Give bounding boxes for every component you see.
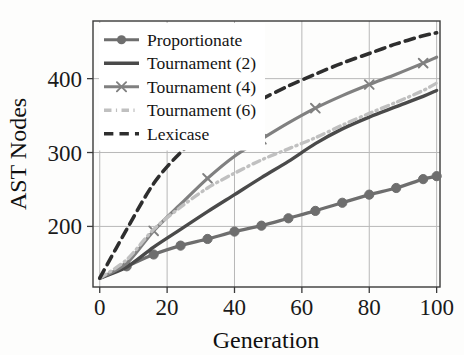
chart-figure: 020406080100200300400 Generation AST Nod… xyxy=(0,0,464,355)
data-point-marker xyxy=(203,234,212,243)
legend-swatch-circle-marker xyxy=(117,35,126,44)
y-tick-label: 400 xyxy=(48,67,83,92)
data-point-marker xyxy=(203,174,212,183)
data-point-marker xyxy=(419,175,428,184)
y-tick-label: 200 xyxy=(48,214,83,239)
data-point-marker xyxy=(392,183,401,192)
y-tick-label: 300 xyxy=(48,141,83,166)
data-point-marker xyxy=(338,198,347,207)
x-axis-title: Generation xyxy=(213,327,320,353)
x-tick-label: 100 xyxy=(419,295,454,320)
ast-nodes-line-chart: 020406080100200300400 Generation AST Nod… xyxy=(0,0,464,355)
y-axis-title: AST Nodes xyxy=(5,98,31,210)
x-tick-label: 60 xyxy=(290,295,313,320)
data-point-marker xyxy=(432,172,441,181)
data-point-marker xyxy=(284,214,293,223)
data-point-marker xyxy=(230,227,239,236)
data-point-marker xyxy=(365,190,374,199)
legend-label: Tournament (2) xyxy=(147,53,256,73)
x-tick-label: 0 xyxy=(94,295,106,320)
legend-label: Lexicase xyxy=(147,124,209,144)
data-point-marker xyxy=(311,206,320,215)
x-tick-label: 80 xyxy=(358,295,381,320)
x-tick-label: 40 xyxy=(223,295,246,320)
x-tick-label: 20 xyxy=(156,295,179,320)
chart-legend: ProportionateTournament (2)Tournament (4… xyxy=(99,23,265,151)
data-point-marker xyxy=(257,221,266,230)
legend-label: Tournament (6) xyxy=(147,100,256,120)
data-point-marker xyxy=(176,241,185,250)
legend-label: Proportionate xyxy=(147,30,242,50)
legend-label: Tournament (4) xyxy=(147,77,256,97)
